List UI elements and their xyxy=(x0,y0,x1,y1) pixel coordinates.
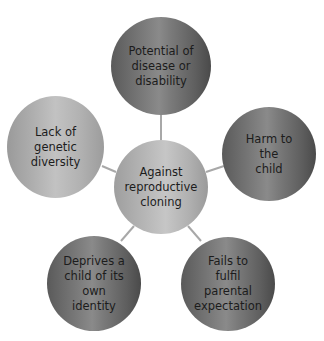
center-line: reproductive xyxy=(117,180,206,195)
node-center-against-cloning: Against reproductive cloning xyxy=(114,140,208,234)
node-line: child xyxy=(230,162,308,177)
node-line: disease or xyxy=(120,59,201,74)
cloning-diagram: Potential of disease or disability Harm … xyxy=(0,0,324,341)
center-line: Against xyxy=(117,165,206,180)
node-line: diversity xyxy=(23,155,89,170)
node-line: Lack of xyxy=(23,125,89,140)
node-line: parental xyxy=(186,284,270,299)
node-fails-parental-expectation: Fails to fulfil parental expectation xyxy=(181,237,275,331)
node-line: Potential of xyxy=(120,44,201,59)
node-line: Fails to fulfil xyxy=(186,254,270,284)
node-potential-disease: Potential of disease or disability xyxy=(111,17,211,115)
node-deprives-identity: Deprives a child of its own identity xyxy=(47,236,141,331)
node-line: child of its xyxy=(55,269,133,284)
node-line: expectation xyxy=(186,299,270,314)
node-harm-to-child: Harm to the child xyxy=(222,107,316,201)
node-line: own identity xyxy=(55,284,133,314)
connector-bottom-right xyxy=(188,226,201,241)
node-lack-genetic-diversity: Lack of genetic diversity xyxy=(7,96,104,198)
node-line: Harm to the xyxy=(230,132,308,162)
node-line: Deprives a xyxy=(55,254,133,269)
center-line: cloning xyxy=(117,195,206,210)
connector-bottom-left xyxy=(121,226,134,241)
node-line: disability xyxy=(120,74,201,89)
node-line: genetic xyxy=(23,140,89,155)
